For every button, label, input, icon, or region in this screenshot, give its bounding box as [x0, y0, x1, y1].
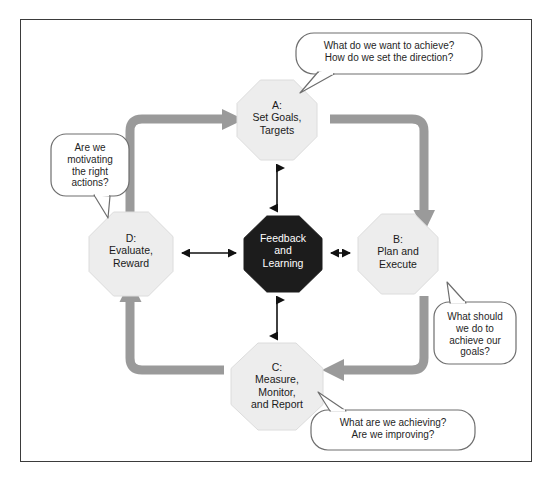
bubble-b-shape[interactable]	[434, 282, 516, 364]
bubbles-layer	[0, 0, 548, 487]
bubble-c-shape[interactable]	[311, 392, 475, 450]
bubble-a-shape[interactable]	[296, 33, 482, 93]
bubble-d-shape[interactable]	[51, 134, 129, 218]
diagram-canvas: A: Set Goals, Targets B: Plan and Execut…	[0, 0, 548, 487]
